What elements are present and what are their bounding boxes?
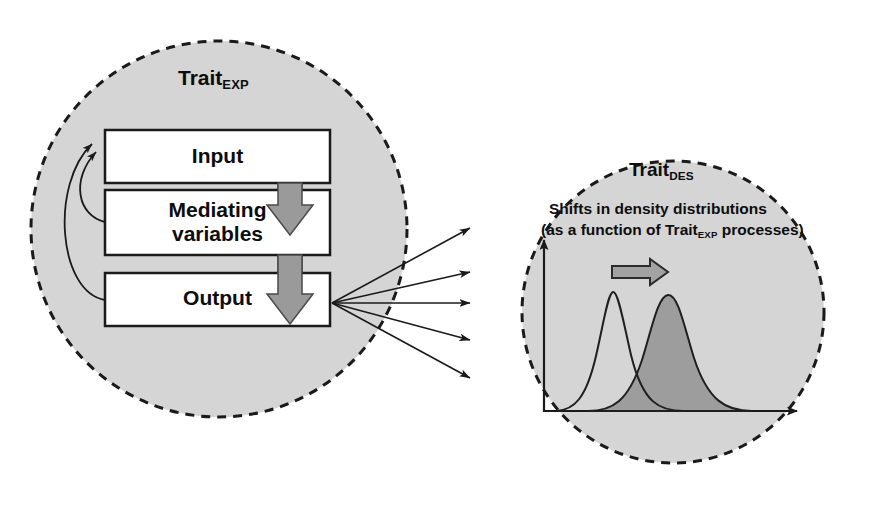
diagram-svg	[0, 0, 871, 513]
process-box-mediating-label-line2: variables	[105, 222, 330, 246]
process-box-input-label: Input	[105, 144, 330, 168]
figure-canvas: TraitEXP Input Mediating variables Outpu…	[0, 0, 871, 513]
density-plot-caption-line2: (as a function of TraitEXP processes)	[541, 221, 804, 239]
trait-des-title: TraitDES	[629, 159, 694, 181]
density-plot-caption-line1: Shifts in density distributions	[549, 200, 767, 218]
process-box-output-label: Output	[105, 286, 330, 310]
process-box-mediating-label-line1: Mediating	[105, 198, 330, 222]
trait-exp-title: TraitEXP	[178, 66, 249, 90]
